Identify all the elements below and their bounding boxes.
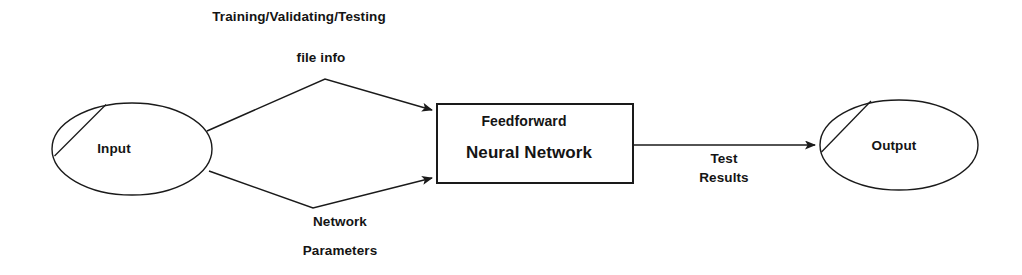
edge-input-to-network-top[interactable] xyxy=(207,79,432,131)
edge-label-parameters-word: Parameters xyxy=(303,242,378,259)
edge-label-results-word: Results xyxy=(699,169,748,186)
edge-input-to-network-bottom[interactable] xyxy=(209,171,432,208)
node-label-neural-network: Neural Network xyxy=(466,142,592,164)
node-input[interactable] xyxy=(52,103,212,195)
edge-label-file-info: file info xyxy=(297,49,346,66)
input-ellipse-shape xyxy=(52,103,212,195)
node-label-feedforward: Feedforward xyxy=(481,113,566,131)
diagram-canvas-root: Training/Validating/Testing file info Ne… xyxy=(0,0,1022,275)
edge-label-training-files: Training/Validating/Testing xyxy=(212,8,385,25)
edge-label-test-word: Test xyxy=(710,150,737,167)
node-label-output: Output xyxy=(872,137,917,154)
flow-diagram-svg xyxy=(0,0,1022,275)
edge-label-network-word: Network xyxy=(313,213,367,230)
node-label-input: Input xyxy=(97,140,131,157)
